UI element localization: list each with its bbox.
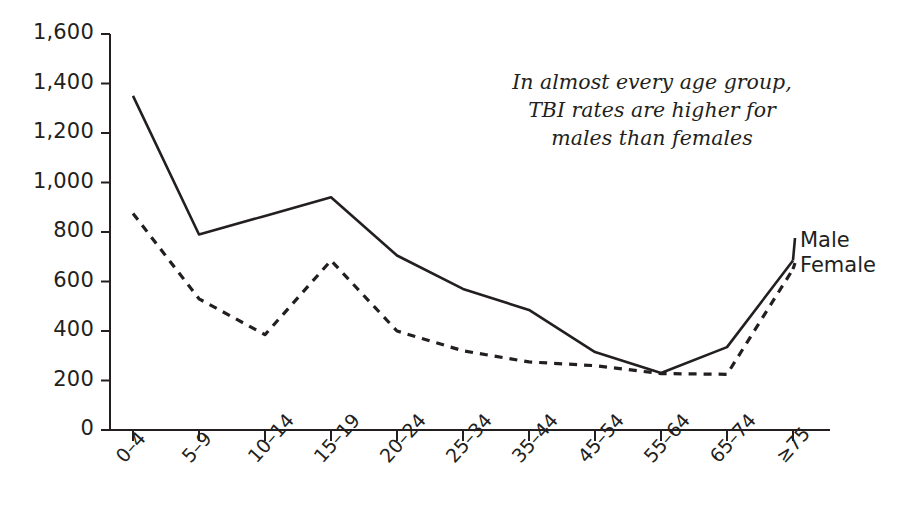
annotation-line-1: In almost every age group, (487, 68, 817, 96)
annotation-line-2: TBI rates are higher for (487, 96, 817, 124)
y-axis-tick-label: 400 (8, 317, 94, 341)
chart-annotation: In almost every age group, TBI rates are… (487, 68, 817, 152)
chart-figure: 1,6001,4001,2001,0008006004002000 0–45–9… (0, 0, 904, 513)
y-axis-tick-label: 200 (8, 367, 94, 391)
legend-label-male: Male (800, 228, 850, 252)
y-axis-tick-label: 1,600 (8, 20, 94, 44)
y-axis-tick-label: 600 (8, 268, 94, 292)
legend-stub-female (793, 263, 795, 269)
annotation-line-3: males than females (487, 124, 817, 152)
y-axis-tick-label: 800 (8, 218, 94, 242)
y-axis-tick-label: 1,200 (8, 119, 94, 143)
legend-stub-male (793, 238, 795, 260)
y-axis-tick-label: 1,400 (8, 70, 94, 94)
series-line-female (133, 213, 793, 374)
legend-label-female: Female (800, 253, 876, 277)
y-axis-tick-label: 1,000 (8, 169, 94, 193)
legend-line-stubs (793, 238, 795, 269)
y-axis-ticks (101, 34, 110, 430)
y-axis-tick-label: 0 (8, 416, 94, 440)
